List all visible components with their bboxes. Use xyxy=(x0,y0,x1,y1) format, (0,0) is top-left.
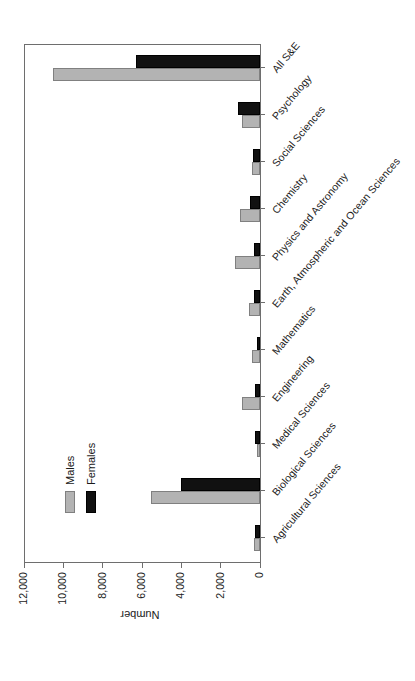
value-axis-line xyxy=(24,562,261,563)
rotated-figure-stage: 02,0004,0006,0008,00010,00012,000 Number… xyxy=(0,0,415,681)
bar-group xyxy=(24,384,260,410)
bar-males xyxy=(53,68,260,81)
bar-males xyxy=(240,209,260,222)
tick-label: 8,000 xyxy=(96,572,109,599)
bar-group xyxy=(24,525,260,551)
bar-males xyxy=(242,397,260,410)
tick-mark xyxy=(181,563,182,568)
category-label: Mathematics xyxy=(269,303,317,357)
bar-males xyxy=(151,491,260,504)
bar-group xyxy=(24,196,260,222)
legend-item: Males xyxy=(64,443,76,513)
category-tick xyxy=(260,208,265,209)
category-tick xyxy=(260,490,265,491)
category-label: Physics and Astronomy xyxy=(269,170,350,263)
tick-label: 4,000 xyxy=(174,572,187,599)
category-tick xyxy=(260,443,265,444)
bar-males xyxy=(252,350,260,363)
bar-group xyxy=(24,243,260,269)
category-tick xyxy=(260,396,265,397)
category-tick xyxy=(260,349,265,350)
bar-group xyxy=(24,431,260,457)
bar-males xyxy=(242,115,260,128)
bar-group xyxy=(24,478,260,504)
tick-mark xyxy=(220,563,221,568)
bar-group xyxy=(24,337,260,363)
legend-item: Females xyxy=(85,443,97,513)
bar-females xyxy=(238,102,260,115)
bar-females xyxy=(250,196,260,209)
tick-label: 10,000 xyxy=(56,572,69,605)
category-label: Chemistry xyxy=(269,171,309,216)
tick-mark xyxy=(102,563,103,568)
category-tick xyxy=(260,161,265,162)
bar-males xyxy=(235,256,260,269)
bar-group xyxy=(24,102,260,128)
category-tick xyxy=(260,67,265,68)
bars-area xyxy=(24,44,260,562)
category-tick xyxy=(260,114,265,115)
tick-label: 12,000 xyxy=(17,572,30,605)
tick-mark xyxy=(63,563,64,568)
category-tick xyxy=(260,255,265,256)
tick-mark xyxy=(24,563,25,568)
value-axis-title: Number xyxy=(70,609,210,621)
category-tick xyxy=(260,537,265,538)
bar-group xyxy=(24,290,260,316)
tick-label: 2,000 xyxy=(214,572,227,599)
legend-swatch-icon xyxy=(86,491,96,513)
tick-label: 0 xyxy=(253,572,266,578)
bar-males xyxy=(249,303,260,316)
tick-mark xyxy=(142,563,143,568)
tick-label: 6,000 xyxy=(135,572,148,599)
category-axis-line xyxy=(260,44,261,563)
bar-chart-figure: 02,0004,0006,0008,00010,00012,000 Number… xyxy=(0,0,415,681)
bar-females xyxy=(181,478,260,491)
bar-group xyxy=(24,149,260,175)
legend-label: Males xyxy=(64,456,76,485)
bar-males xyxy=(257,444,260,457)
chart-legend: MalesFemales xyxy=(64,443,97,513)
category-label: Agricultural Sciences xyxy=(269,461,343,545)
bar-males xyxy=(252,162,260,175)
legend-swatch-icon xyxy=(65,491,75,513)
bar-females xyxy=(136,55,260,68)
bar-females xyxy=(253,149,260,162)
bar-males xyxy=(254,538,260,551)
category-tick xyxy=(260,302,265,303)
bar-group xyxy=(24,55,260,81)
category-label: All S&E xyxy=(269,39,302,75)
tick-mark xyxy=(260,563,261,568)
legend-label: Females xyxy=(85,443,97,485)
